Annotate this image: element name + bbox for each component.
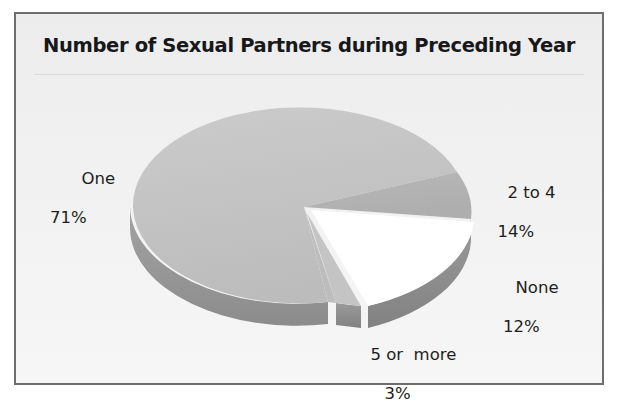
slice-label-one: One 71% (50, 150, 115, 267)
slice-label-5-or-more: 5 or more 3% (339, 326, 456, 402)
slice-label-5-or-more-value: 3% (339, 384, 456, 402)
slice-label-none: None 12% (484, 259, 559, 376)
slice-side-5-or-more (336, 303, 361, 328)
slice-label-one-name: One (81, 169, 115, 188)
slice-label-none-name: None (515, 278, 558, 297)
slice-label-5-or-more-name: 5 or more (370, 345, 456, 364)
chart-figure-frame: Number of Sexual Partners during Precedi… (14, 12, 604, 385)
page-canvas: Number of Sexual Partners during Precedi… (0, 0, 623, 402)
slice-label-2-to-4-value: 14% (476, 222, 556, 241)
slice-label-none-value: 12% (484, 317, 559, 336)
slice-label-one-value: 71% (50, 208, 115, 227)
slice-label-2-to-4-name: 2 to 4 (507, 183, 555, 202)
